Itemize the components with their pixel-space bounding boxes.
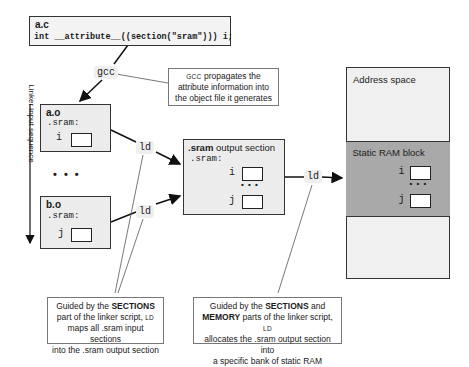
variable-slot — [71, 228, 92, 242]
output-section-name: .sram — [188, 142, 213, 153]
note-text: parts of the linker script, — [240, 312, 333, 322]
note-text: Guided by the — [210, 301, 265, 311]
object-file-name: b.o — [46, 199, 61, 210]
ellipsis: • • • — [241, 180, 259, 189]
ld-tag-output: ld — [304, 170, 322, 183]
sections-note: Guided by the SECTIONS part of the linke… — [47, 297, 164, 344]
source-file-box: a.c int __attribute__((section("sram")))… — [29, 16, 231, 46]
note-text: part of the linker script, — [57, 312, 145, 322]
variable-slot — [242, 167, 263, 181]
memory-note: Guided by the SECTIONS and MEMORY parts … — [193, 297, 342, 344]
address-space: Address space Static RAM block i • • • j — [346, 67, 450, 279]
object-section-label: .sram: — [47, 118, 79, 128]
note-keyword: MEMORY — [202, 312, 240, 322]
note-keyword: SECTIONS — [111, 301, 154, 311]
linker-sequence-label: Linker input sequence — [27, 64, 36, 184]
variable-label: j — [58, 228, 64, 239]
note-smallcaps: LD — [263, 325, 272, 332]
variable-label: i — [399, 166, 405, 177]
note-line: part of the linker script, LD — [52, 312, 159, 323]
variable-slot — [410, 194, 431, 208]
note-text: Guided by the — [56, 301, 111, 311]
gcc-tag: gcc — [94, 66, 118, 79]
ld-tag-a: ld — [136, 141, 154, 154]
variable-label: j — [229, 195, 235, 206]
source-code-line: int __attribute__((section("sram"))) i; — [34, 32, 233, 42]
note-smallcaps: LD — [145, 314, 154, 321]
variable-slot — [242, 195, 263, 209]
variable-slot — [71, 133, 92, 147]
variable-label: i — [56, 132, 62, 143]
address-space-label: Address space — [353, 74, 416, 85]
note-line: Guided by the SECTIONS — [52, 301, 159, 312]
variable-label: i — [229, 167, 235, 178]
output-section-label: .sram: — [190, 154, 222, 164]
note-line: allocates the .sram output section into — [198, 334, 337, 356]
variable-slot — [410, 166, 431, 180]
gcc-prefix: GCC — [186, 73, 201, 80]
ellipsis: • • • — [410, 179, 428, 188]
ellipsis: • • • — [53, 168, 81, 180]
note-keyword: SECTIONS — [265, 301, 308, 311]
output-section-title: .sram output section — [188, 142, 275, 153]
note-line: into the .sram output section — [52, 345, 159, 356]
gcc-note: GCC propagates the attribute information… — [168, 68, 279, 106]
note-line: MEMORY parts of the linker script, LD — [198, 312, 337, 334]
output-section-box: .sram output section .sram: i • • • j — [183, 139, 285, 215]
object-file-b: b.o .sram: j — [40, 196, 111, 249]
note-text: and — [309, 301, 326, 311]
object-file-a: a.o .sram: i — [40, 104, 111, 152]
ld-tag-b: ld — [136, 205, 154, 218]
source-file-name: a.c — [35, 19, 49, 30]
output-section-suffix: output section — [213, 142, 275, 153]
note-line: a specific bank of static RAM — [198, 356, 337, 367]
variable-label: j — [399, 194, 405, 205]
sram-block: Static RAM block i • • • j — [346, 141, 450, 217]
object-section-label: .sram: — [47, 211, 79, 221]
sram-block-label: Static RAM block — [353, 147, 425, 158]
note-line: maps all .sram input sections — [52, 323, 159, 345]
object-file-name: a.o — [46, 107, 60, 118]
note-line: Guided by the SECTIONS and — [198, 301, 337, 312]
